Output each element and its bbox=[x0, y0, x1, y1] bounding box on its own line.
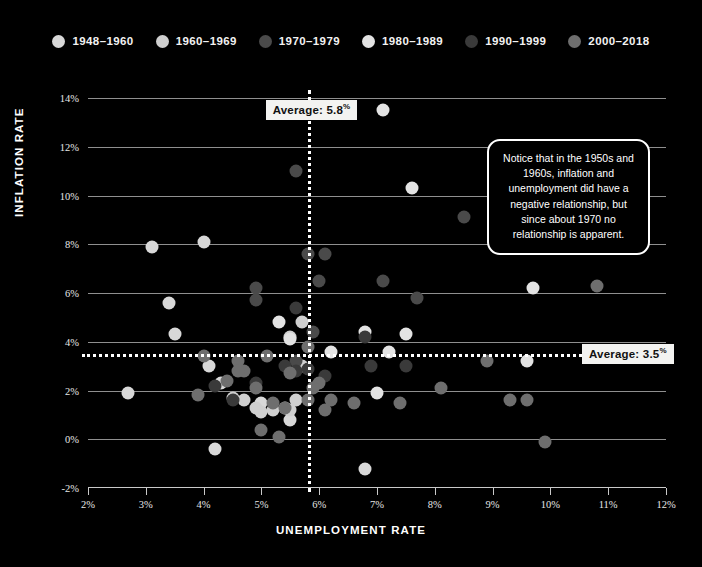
scatter-point bbox=[371, 386, 384, 399]
x-axis-tick-label: 5% bbox=[254, 499, 268, 510]
scatter-point bbox=[318, 248, 331, 261]
scatter-point bbox=[394, 396, 407, 409]
percent-sign: % bbox=[343, 102, 350, 111]
scatter-point bbox=[284, 333, 297, 346]
x-axis-line bbox=[88, 487, 666, 488]
scatter-point bbox=[249, 294, 262, 307]
scatter-point bbox=[266, 396, 279, 409]
chart-legend: 1948–19601960–19691970–19791980–19891990… bbox=[0, 28, 702, 54]
y-axis-tick-label: 8% bbox=[65, 239, 79, 250]
average-unemployment-badge-text: Average: 5.8 bbox=[273, 104, 343, 116]
scatter-point bbox=[359, 330, 372, 343]
scatter-point bbox=[249, 382, 262, 395]
gridline bbox=[88, 293, 666, 294]
scatter-point bbox=[249, 282, 262, 295]
scatter-point bbox=[503, 394, 516, 407]
scatter-point bbox=[197, 235, 210, 248]
scatter-point bbox=[521, 394, 534, 407]
legend-item[interactable]: 1948–1960 bbox=[52, 35, 133, 48]
scatter-point bbox=[399, 360, 412, 373]
legend-item-label: 2000–2018 bbox=[588, 35, 649, 47]
scatter-point bbox=[226, 394, 239, 407]
annotation-text: Notice that in the 1950s and 1960s, infl… bbox=[503, 152, 634, 240]
legend-item-label: 1980–1989 bbox=[382, 35, 443, 47]
y-axis-tick-label: 6% bbox=[65, 288, 79, 299]
legend-item[interactable]: 1990–1999 bbox=[465, 35, 546, 48]
x-axis-tick-mark bbox=[146, 488, 147, 495]
scatter-point bbox=[278, 401, 291, 414]
legend-swatch-icon bbox=[465, 35, 478, 48]
y-axis-tick-label: 14% bbox=[60, 93, 79, 104]
scatter-point bbox=[313, 274, 326, 287]
scatter-point bbox=[434, 382, 447, 395]
x-axis-tick-mark bbox=[493, 488, 494, 495]
scatter-point bbox=[295, 316, 308, 329]
y-axis-tick-label: 10% bbox=[60, 190, 79, 201]
legend-item[interactable]: 1960–1969 bbox=[156, 35, 237, 48]
chart-root: 1948–19601960–19691970–19791980–19891990… bbox=[0, 0, 702, 567]
x-axis-tick-mark bbox=[261, 488, 262, 495]
scatter-point bbox=[405, 182, 418, 195]
scatter-point bbox=[232, 365, 245, 378]
x-axis-tick-mark bbox=[377, 488, 378, 495]
scatter-point bbox=[168, 328, 181, 341]
scatter-point bbox=[411, 291, 424, 304]
legend-swatch-icon bbox=[362, 35, 375, 48]
scatter-point bbox=[122, 386, 135, 399]
legend-swatch-icon bbox=[568, 35, 581, 48]
average-inflation-badge-text: Average: 3.5 bbox=[589, 348, 659, 360]
scatter-point bbox=[290, 301, 303, 314]
scatter-point bbox=[376, 104, 389, 117]
scatter-point bbox=[527, 282, 540, 295]
x-axis-tick-mark bbox=[204, 488, 205, 495]
x-axis-tick-label: 8% bbox=[428, 499, 442, 510]
legend-item-label: 1990–1999 bbox=[485, 35, 546, 47]
x-axis-tick-label: 6% bbox=[312, 499, 326, 510]
scatter-point bbox=[376, 274, 389, 287]
scatter-point bbox=[162, 296, 175, 309]
gridline bbox=[88, 439, 666, 440]
gridline bbox=[88, 98, 666, 99]
x-axis-tick-mark bbox=[608, 488, 609, 495]
legend-swatch-icon bbox=[52, 35, 65, 48]
legend-item-label: 1970–1979 bbox=[279, 35, 340, 47]
annotation-callout: Notice that in the 1950s and 1960s, infl… bbox=[487, 139, 650, 255]
x-axis-tick-mark bbox=[88, 488, 89, 495]
x-axis-tick-mark bbox=[666, 488, 667, 495]
legend-item[interactable]: 2000–2018 bbox=[568, 35, 649, 48]
y-axis-tick-label: 2% bbox=[65, 385, 79, 396]
scatter-point bbox=[365, 360, 378, 373]
y-axis-tick-label: 12% bbox=[60, 141, 79, 152]
legend-item[interactable]: 1970–1979 bbox=[259, 35, 340, 48]
y-axis-tick-label: 4% bbox=[65, 336, 79, 347]
legend-swatch-icon bbox=[156, 35, 169, 48]
percent-sign: % bbox=[659, 346, 666, 355]
scatter-point bbox=[590, 279, 603, 292]
average-unemployment-line bbox=[308, 90, 311, 492]
legend-item-label: 1948–1960 bbox=[72, 35, 133, 47]
average-inflation-badge: Average: 3.5% bbox=[582, 344, 674, 364]
scatter-point bbox=[538, 435, 551, 448]
scatter-point bbox=[347, 396, 360, 409]
x-axis-tick-label: 11% bbox=[599, 499, 618, 510]
scatter-point bbox=[290, 165, 303, 178]
x-axis-tick-label: 3% bbox=[139, 499, 153, 510]
average-inflation-line bbox=[82, 354, 666, 357]
x-axis-tick-mark bbox=[550, 488, 551, 495]
x-axis-title: UNEMPLOYMENT RATE bbox=[0, 524, 702, 536]
scatter-point bbox=[220, 374, 233, 387]
gridline bbox=[88, 342, 666, 343]
scatter-point bbox=[145, 240, 158, 253]
legend-swatch-icon bbox=[259, 35, 272, 48]
legend-item-label: 1960–1969 bbox=[176, 35, 237, 47]
x-axis-tick-label: 2% bbox=[81, 499, 95, 510]
average-unemployment-badge: Average: 5.8% bbox=[266, 100, 358, 120]
y-axis-tick-label: 0% bbox=[65, 434, 79, 445]
legend-item[interactable]: 1980–1989 bbox=[362, 35, 443, 48]
scatter-point bbox=[457, 211, 470, 224]
scatter-point bbox=[191, 389, 204, 402]
x-axis-tick-label: 12% bbox=[656, 499, 675, 510]
x-axis-tick-label: 10% bbox=[541, 499, 560, 510]
y-axis-title: INFLATION RATE bbox=[13, 107, 25, 217]
scatter-point bbox=[399, 328, 412, 341]
